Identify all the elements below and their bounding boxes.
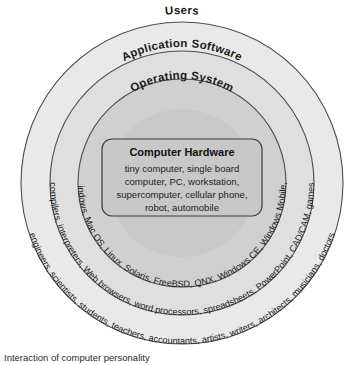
computer-hardware-title: Computer Hardware — [129, 146, 234, 158]
users-layer-title: Users — [164, 4, 199, 17]
computer-hardware-line-3: supercomputer, cellular phone, — [116, 189, 247, 200]
figure-caption: Interaction of computer personality — [4, 352, 150, 363]
concentric-rings-graphic: Users Application Software Operating Sys… — [0, 0, 361, 365]
layered-computer-diagram: Users Application Software Operating Sys… — [0, 0, 361, 365]
computer-hardware-line-4: robot, automobile — [145, 202, 219, 213]
computer-hardware-line-2: computer, PC, workstation, — [125, 176, 240, 187]
computer-hardware-line-1: tiny computer, single board — [125, 163, 240, 174]
